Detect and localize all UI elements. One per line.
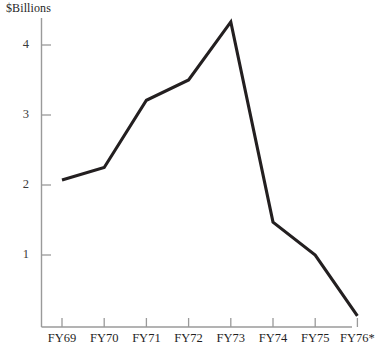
y-tick-label: 4 xyxy=(11,37,29,52)
x-tick-label: FY69 xyxy=(48,331,76,346)
x-axis-ticks xyxy=(62,318,357,327)
data-series-line xyxy=(62,22,357,316)
x-tick-label: FY76* xyxy=(340,331,375,346)
x-tick-label: FY70 xyxy=(90,331,118,346)
y-tick-label: 2 xyxy=(11,177,29,192)
x-tick-label: FY72 xyxy=(174,331,202,346)
x-tick-label: FY71 xyxy=(132,331,160,346)
y-tick-label: 3 xyxy=(11,107,29,122)
y-tick-label: 1 xyxy=(11,247,29,262)
y-axis-ticks xyxy=(42,45,52,255)
x-tick-label: FY73 xyxy=(217,331,245,346)
x-tick-label: FY75 xyxy=(301,331,329,346)
x-tick-label: FY74 xyxy=(259,331,287,346)
